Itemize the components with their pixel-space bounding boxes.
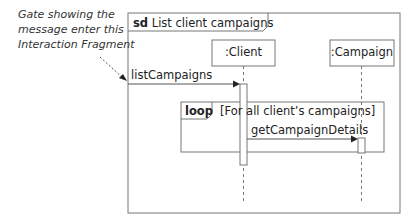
annotation-line-3: Interaction Fragment	[18, 37, 135, 52]
loop-operator: loop	[185, 104, 213, 118]
client-lifeline-label: :Client	[212, 45, 275, 59]
loop-guard: [For all client’s campaigns]	[220, 104, 375, 118]
listcampaigns-arrowhead	[233, 81, 240, 88]
annotation-pointer	[100, 57, 123, 78]
gate-annotation: Gate showing the message enter this Inte…	[18, 7, 135, 52]
campaign-activation	[358, 138, 365, 153]
sd-frame-title: sd List client campaigns	[133, 16, 273, 30]
client-activation	[240, 84, 247, 165]
annotation-pointer-arrowhead	[119, 74, 127, 81]
annotation-line-2: message enter this	[18, 22, 135, 37]
listcampaigns-message-label: listCampaigns	[131, 68, 212, 82]
sd-name: List client campaigns	[152, 16, 274, 30]
sd-operator: sd	[133, 16, 148, 30]
annotation-line-1: Gate showing the	[18, 7, 135, 22]
campaign-lifeline-label: :Campaign	[330, 45, 394, 59]
getcampaigndetails-message-label: getCampaignDetails	[251, 123, 368, 137]
